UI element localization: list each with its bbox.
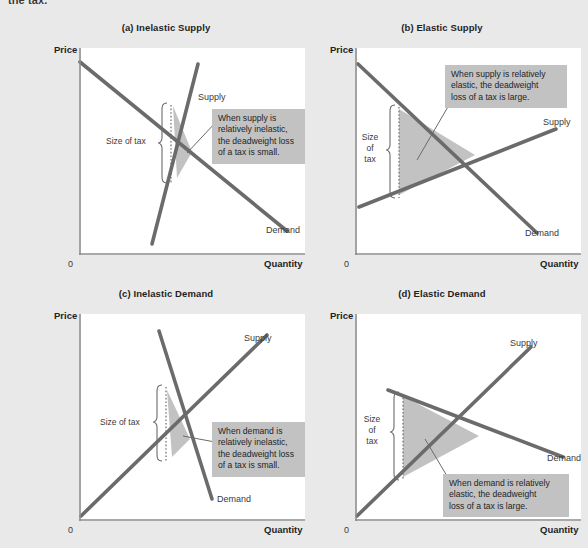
- panel-b-callout-line-2: elastic, the deadweight: [451, 80, 561, 91]
- panel-b-size-of-tax-bracket: [386, 105, 395, 198]
- panel-d-quantity-axis-label: Quantity: [540, 524, 579, 535]
- panel-b-callout-line-3: loss of a tax is large.: [451, 92, 561, 103]
- panel-a-callout-box: When supply is relatively inelastic, the…: [212, 109, 305, 164]
- panel-a-plot-area: Supply Demand Size of tax When supply is…: [79, 48, 305, 255]
- panel-c-plot-area: Supply Demand Size of tax When demand is…: [79, 314, 305, 521]
- panel-c-size-of-tax-bracket: [153, 385, 162, 461]
- panel-c-inelastic-demand: (c) Inelastic Demand Price Supply Demand…: [20, 288, 312, 538]
- panel-c-title: (c) Inelastic Demand: [20, 288, 312, 299]
- panel-d-elastic-demand: (d) Elastic Demand Price Supply Demand S…: [296, 288, 588, 538]
- panel-d-plot-area: Supply Demand Size of tax When demand is…: [355, 314, 581, 521]
- panel-b-title: (b) Elastic Supply: [296, 22, 588, 33]
- panel-d-callout-box: When demand is relatively elastic, the d…: [443, 474, 569, 517]
- panel-c-size-of-tax-label: Size of tax: [100, 417, 140, 428]
- panel-d-callout-line-1: When demand is relatively: [449, 478, 563, 489]
- panel-b-supply-label: Supply: [543, 117, 571, 127]
- panel-b-price-axis-label: Price: [330, 44, 353, 55]
- panel-a-demand-label: Demand: [266, 225, 300, 235]
- panel-a-size-of-tax-label: Size of tax: [106, 136, 146, 147]
- panel-d-supply-label: Supply: [510, 338, 538, 348]
- panel-c-callout-line-4: of a tax is small.: [218, 460, 299, 471]
- panel-a-callout-line-2: relatively inelastic,: [218, 124, 299, 135]
- panel-b-tax-line-1: Size: [357, 132, 383, 143]
- panel-d-tax-line-1: Size: [359, 414, 385, 425]
- panel-b-deadweight-loss-region: [399, 109, 475, 195]
- panel-b-elastic-supply: (b) Elastic Supply Price Supply Demand S…: [296, 22, 588, 272]
- panel-b-demand-label: Demand: [525, 228, 559, 238]
- panel-a-callout-line-4: of a tax is small.: [218, 147, 299, 158]
- panel-a-price-axis-label: Price: [54, 44, 77, 55]
- panel-c-callout-line-2: relatively inelastic,: [218, 437, 299, 448]
- panel-a-origin-label: 0: [68, 259, 73, 269]
- panel-d-title: (d) Elastic Demand: [296, 288, 588, 299]
- panel-b-tax-line-2: of: [357, 143, 383, 154]
- panel-b-callout-box: When supply is relatively elastic, the d…: [445, 65, 567, 108]
- panel-a-callout-line-1: When supply is: [218, 113, 299, 124]
- panel-a-callout-line-3: the deadweight loss: [218, 136, 299, 147]
- panel-d-size-of-tax-bracket: [390, 392, 399, 480]
- panel-c-demand-label: Demand: [217, 494, 251, 504]
- panel-d-origin-label: 0: [344, 525, 349, 535]
- panel-d-callout-line-2: elastic, the deadweight: [449, 489, 563, 500]
- panel-a-size-of-tax-bracket: [158, 103, 167, 183]
- panel-c-callout-line-3: the deadweight loss: [218, 449, 299, 460]
- panel-a-inelastic-supply: (a) Inelastic Supply Price Supply Demand…: [20, 22, 312, 272]
- panel-c-callout-box: When demand is relatively inelastic, the…: [212, 422, 305, 477]
- panel-d-price-axis-label: Price: [330, 310, 353, 321]
- panel-c-supply-label: Supply: [244, 333, 272, 343]
- panel-c-price-axis-label: Price: [54, 310, 77, 321]
- panel-c-origin-label: 0: [68, 525, 73, 535]
- panel-d-callout-line-3: loss of a tax is large.: [449, 501, 563, 512]
- panel-b-plot-area: Supply Demand Size of tax When supply is…: [355, 48, 581, 255]
- panel-b-quantity-axis-label: Quantity: [540, 258, 579, 269]
- panel-d-tax-line-3: tax: [359, 436, 385, 447]
- panel-c-callout-line-1: When demand is: [218, 426, 299, 437]
- panel-b-size-of-tax-label: Size of tax: [357, 132, 383, 165]
- page-top-text-fragment: the tax.: [8, 0, 47, 8]
- panel-b-supply-curve: [359, 129, 556, 207]
- panel-d-size-of-tax-label: Size of tax: [359, 414, 385, 447]
- panel-b-tax-line-3: tax: [357, 154, 383, 165]
- panel-a-supply-label: Supply: [198, 92, 226, 102]
- panel-b-callout-line-1: When supply is relatively: [451, 69, 561, 80]
- panel-d-demand-label: Demand: [547, 453, 581, 463]
- panel-d-tax-line-2: of: [359, 425, 385, 436]
- panel-b-origin-label: 0: [344, 259, 349, 269]
- panel-c-demand-curve: [159, 331, 212, 499]
- panel-a-title: (a) Inelastic Supply: [20, 22, 312, 33]
